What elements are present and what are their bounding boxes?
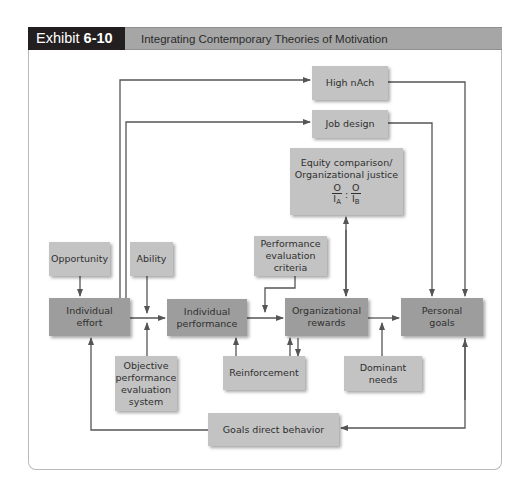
node-ability: Ability xyxy=(130,242,173,276)
equity-ratio: OIA : OIB xyxy=(329,183,363,207)
node-goals-direct-behavior: Goals direct behavior xyxy=(208,413,339,446)
node-organizational-rewards: Organizational rewards xyxy=(285,298,368,336)
node-job-design: Job design xyxy=(312,110,388,138)
node-dominant-needs: Dominant needs xyxy=(344,356,422,391)
node-objective-performance-evaluation-system: Objective performance evaluation system xyxy=(115,356,177,411)
node-performance-evaluation-criteria: Performance evaluation criteria xyxy=(254,236,327,276)
node-equity-comparison: Equity comparison/ Organizational justic… xyxy=(290,148,403,215)
node-individual-performance: Individual performance xyxy=(167,299,247,336)
node-reinforcement: Reinforcement xyxy=(223,356,305,390)
node-individual-effort: Individual effort xyxy=(49,298,130,336)
node-personal-goals: Personal goals xyxy=(401,298,483,336)
node-opportunity: Opportunity xyxy=(49,242,110,276)
node-high-nach: High nAch xyxy=(312,66,388,100)
